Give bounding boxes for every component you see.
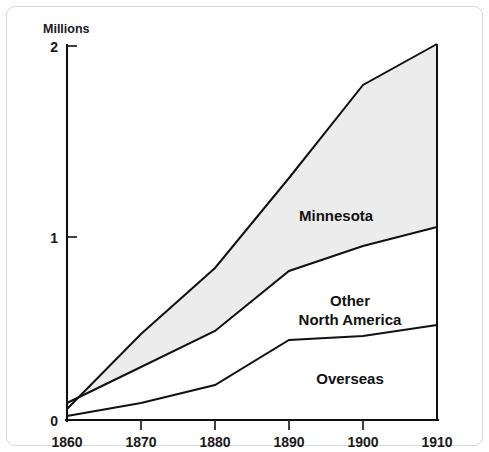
chart-svg: Millions 2 1 0 1860 1870 1880 1890 1900 … [0,0,489,452]
series-label-overseas: Overseas [316,370,384,387]
y-axis-unit-label: Millions [43,22,90,36]
x-tick-label-1870: 1870 [125,434,156,450]
series-label-other-line2: North America [299,311,402,328]
stacked-area-chart: Millions 2 1 0 1860 1870 1880 1890 1900 … [0,0,489,452]
x-tick-label-1910: 1910 [421,434,452,450]
y-tick-label-2: 2 [50,39,58,55]
series-label-minnesota: Minnesota [299,207,374,224]
x-tick-label-1900: 1900 [347,434,378,450]
x-tick-label-1890: 1890 [273,434,304,450]
series-label-other-line1: Other [330,292,370,309]
x-tick-label-1860: 1860 [51,434,82,450]
y-tick-label-1: 1 [50,230,58,246]
chart-figure: Millions 2 1 0 1860 1870 1880 1890 1900 … [0,0,489,452]
y-tick-label-0: 0 [50,413,58,429]
x-tick-label-1880: 1880 [199,434,230,450]
